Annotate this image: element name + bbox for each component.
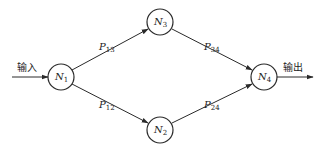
node-n4: N4	[251, 64, 277, 90]
output-label: 输出	[283, 61, 303, 73]
node-n3: N3	[147, 9, 173, 35]
node-n1: N1	[48, 64, 74, 90]
network-diagram: 输入 输出 P13 P12 P34 P24 N1 N3 N2 N4	[0, 0, 320, 153]
edge-label-p12: P12	[98, 99, 115, 112]
input-label: 输入	[17, 61, 37, 73]
edge-label-p13: P13	[98, 41, 115, 54]
node-n2: N2	[147, 117, 173, 143]
edge-label-p34: P34	[203, 41, 220, 54]
